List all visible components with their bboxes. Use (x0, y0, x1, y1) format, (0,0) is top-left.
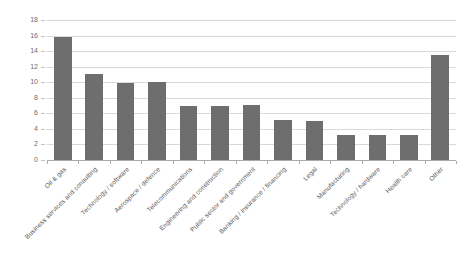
y-axis-tick-label: 8 (4, 94, 38, 101)
y-axis-tick (41, 160, 45, 161)
x-axis-tick (425, 161, 426, 164)
x-axis-tick (299, 161, 300, 164)
y-axis-tick (41, 129, 45, 130)
y-axis-tick (41, 82, 45, 83)
x-axis-tick (362, 161, 363, 164)
x-axis-line (47, 160, 456, 161)
y-axis-tick (41, 98, 45, 99)
bar[interactable] (337, 135, 355, 160)
x-axis-tick (267, 161, 268, 164)
y-axis-tick (41, 36, 45, 37)
bar[interactable] (306, 121, 324, 160)
x-axis-category-label: Other (428, 166, 444, 182)
y-axis-tick-label: 4 (4, 125, 38, 132)
y-axis-tick (41, 113, 45, 114)
bar[interactable] (400, 135, 418, 160)
x-axis-tick (236, 161, 237, 164)
bar[interactable] (243, 105, 261, 160)
y-axis-tick-label: 0 (4, 156, 38, 163)
plot-area (47, 20, 456, 160)
bar[interactable] (274, 120, 292, 160)
y-axis-tick-label: 10 (4, 78, 38, 85)
x-axis-category-label: Legal (303, 166, 319, 182)
x-axis-tick (141, 161, 142, 164)
bar[interactable] (180, 106, 198, 160)
x-axis-category-label: Health care (385, 166, 414, 195)
bar[interactable] (54, 37, 72, 160)
y-axis-tick-label: 14 (4, 47, 38, 54)
x-axis-category-label: Banking / insurance / financing (218, 166, 287, 235)
bar[interactable] (369, 135, 387, 160)
x-axis-tick (110, 161, 111, 164)
y-axis-tick (41, 67, 45, 68)
y-axis-tick-label: 2 (4, 140, 38, 147)
bar[interactable] (148, 82, 166, 160)
x-axis-tick (173, 161, 174, 164)
x-axis-tick (78, 161, 79, 164)
bar[interactable] (211, 106, 229, 160)
bar[interactable] (117, 83, 135, 160)
y-axis-tick-label: 18 (4, 16, 38, 23)
bar[interactable] (431, 55, 449, 160)
x-axis-tick (393, 161, 394, 164)
y-axis-tick-label: 16 (4, 32, 38, 39)
y-axis-tick-label: 12 (4, 63, 38, 70)
y-axis-tick (41, 20, 45, 21)
x-axis-category-label: Oil & gas (43, 166, 67, 190)
x-axis-category-label: Engineering and construction (159, 166, 225, 232)
x-axis-tick (204, 161, 205, 164)
x-axis-tick (47, 161, 48, 164)
x-axis-tick (330, 161, 331, 164)
y-axis-tick (41, 144, 45, 145)
x-axis-tick (456, 161, 457, 164)
bar[interactable] (85, 74, 103, 160)
bar-chart: 024681012141618 Oil & gasBusiness servic… (0, 0, 471, 266)
y-axis-tick (41, 51, 45, 52)
y-axis-tick-label: 6 (4, 109, 38, 116)
